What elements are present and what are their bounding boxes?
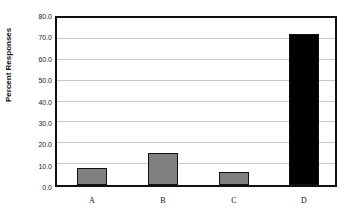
- plot-area: [55, 16, 337, 187]
- x-tick-label: C: [231, 196, 236, 205]
- y-tick-label: 20.0: [38, 141, 52, 148]
- y-tick-label: 10.0: [38, 162, 52, 169]
- y-tick-label: 0.0: [42, 184, 52, 191]
- y-tick-label: 50.0: [38, 77, 52, 84]
- y-tick-label: 80.0: [38, 13, 52, 20]
- y-axis-label: Percent Responses: [4, 28, 13, 102]
- x-tick-label: B: [160, 196, 165, 205]
- y-tick-label: 40.0: [38, 98, 52, 105]
- bar-d: [289, 34, 319, 185]
- y-tick-label: 70.0: [38, 34, 52, 41]
- y-tick-label: 30.0: [38, 119, 52, 126]
- y-tick-label: 60.0: [38, 55, 52, 62]
- x-tick-label: A: [89, 196, 95, 205]
- bar-c: [219, 172, 249, 185]
- bar-a: [77, 168, 107, 185]
- x-tick-label: D: [301, 196, 307, 205]
- bar-b: [148, 153, 178, 185]
